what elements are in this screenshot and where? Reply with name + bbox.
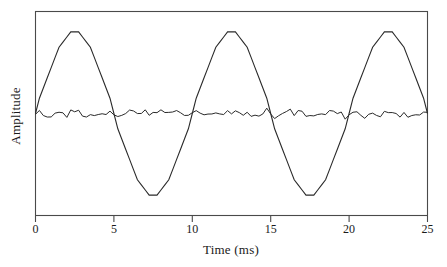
series-group (36, 32, 428, 195)
series-quantization-noise (36, 108, 428, 119)
x-tick-label-10: 10 (172, 222, 212, 237)
x-tick-label-5: 5 (94, 222, 134, 237)
plot-svg (0, 0, 447, 267)
figure-canvas: Amplitude Time (ms) 0 5 10 15 20 25 (0, 0, 447, 267)
x-tick-label-25: 25 (408, 222, 447, 237)
y-axis-title: Amplitude (8, 69, 24, 163)
x-tick-label-0: 0 (16, 222, 56, 237)
x-tick-label-20: 20 (329, 222, 369, 237)
x-axis-title: Time (ms) (165, 242, 297, 258)
x-tick-label-15: 15 (251, 222, 291, 237)
